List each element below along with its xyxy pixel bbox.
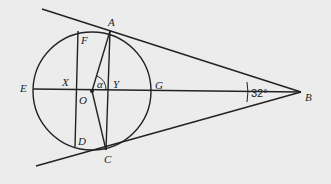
label-G: G xyxy=(155,79,163,91)
label-D: D xyxy=(77,135,86,147)
radius-OC xyxy=(92,91,106,150)
label-Y: Y xyxy=(113,78,121,90)
label-X: X xyxy=(61,76,70,88)
geometry-diagram: A F E X α Y O G D C B 32° xyxy=(0,0,331,184)
label-A: A xyxy=(107,16,115,28)
label-alpha: α xyxy=(97,78,103,90)
label-C: C xyxy=(104,153,112,165)
tangent-line-top xyxy=(42,9,301,92)
label-O: O xyxy=(79,94,87,106)
label-E: E xyxy=(19,82,27,94)
angle-B-value: 32° xyxy=(251,87,268,99)
label-B: B xyxy=(305,91,312,103)
center-point-O xyxy=(90,89,94,93)
label-F: F xyxy=(80,34,88,46)
